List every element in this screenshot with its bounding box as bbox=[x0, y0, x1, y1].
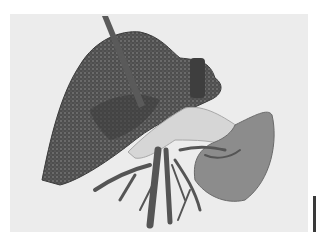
vena-cava bbox=[190, 58, 205, 98]
scale-bar bbox=[313, 196, 316, 232]
organ-rendering bbox=[0, 0, 317, 245]
